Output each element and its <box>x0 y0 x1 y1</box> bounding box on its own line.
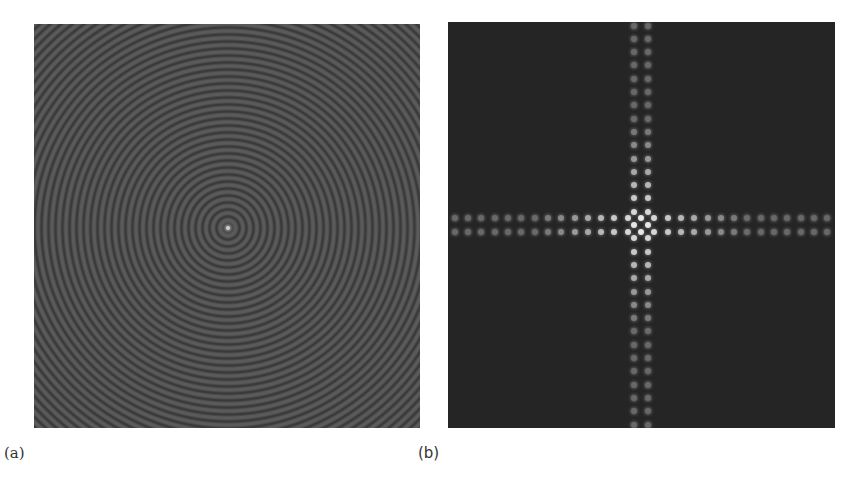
spectrum-dot <box>631 382 637 388</box>
spectrum-dot <box>798 229 804 235</box>
spectrum-dot <box>611 229 617 235</box>
spectrum-dot <box>532 215 538 221</box>
spectrum-dot <box>645 315 651 321</box>
spectrum-dot <box>545 229 551 235</box>
spectrum-dot <box>518 229 524 235</box>
spectrum-dot <box>718 215 724 221</box>
spectrum-dot <box>645 235 651 241</box>
spectrum-dot <box>558 215 564 221</box>
spectrum-dot <box>631 62 637 68</box>
spectrum-dot <box>771 229 777 235</box>
spectrum-dot <box>784 229 790 235</box>
spectrum-dot <box>645 76 651 82</box>
spectrum-dot <box>611 215 617 221</box>
panel-b-spectrum-image <box>448 22 835 428</box>
spectrum-dot <box>651 215 657 221</box>
spectrum-dot <box>478 229 484 235</box>
spectrum-dot <box>744 229 750 235</box>
spectrum-dot <box>645 182 651 188</box>
spectrum-dot <box>631 142 637 148</box>
spectrum-dot <box>631 76 637 82</box>
spectrum-dot <box>465 215 471 221</box>
spectrum-dot <box>625 229 631 235</box>
spectrum-dot <box>678 215 684 221</box>
spectrum-dot <box>645 275 651 281</box>
spectrum-dot <box>631 328 637 334</box>
spectrum-dot <box>645 289 651 295</box>
spectrum-dot <box>631 156 637 162</box>
rings-center-dot <box>226 226 230 230</box>
spectrum-dot <box>645 116 651 122</box>
spectrum-dot <box>631 195 637 201</box>
spectrum-dot <box>631 89 637 95</box>
spectrum-dot <box>645 209 651 215</box>
spectrum-dot <box>631 209 637 215</box>
spectrum-dot <box>645 262 651 268</box>
spectrum-dot <box>631 222 637 228</box>
spectrum-dot <box>691 215 697 221</box>
spectrum-dot <box>505 215 511 221</box>
spectrum-dot <box>631 49 637 55</box>
spectrum-dot <box>645 36 651 42</box>
spectrum-dot <box>665 215 671 221</box>
spectrum-dot <box>545 215 551 221</box>
spectrum-dot <box>631 249 637 255</box>
spectrum-dot <box>645 328 651 334</box>
spectrum-dot <box>572 215 578 221</box>
spectrum-dot <box>631 262 637 268</box>
spectrum-dot <box>758 215 764 221</box>
spectrum-dot <box>645 249 651 255</box>
spectrum-dot <box>691 229 697 235</box>
spectrum-dot <box>518 215 524 221</box>
spectrum-dot <box>758 229 764 235</box>
spectrum-dot <box>585 215 591 221</box>
spectrum-dot <box>478 215 484 221</box>
spectrum-dot <box>585 229 591 235</box>
spectrum-dot <box>645 408 651 414</box>
spectrum-dot <box>631 235 637 241</box>
spectrum-dot <box>598 215 604 221</box>
spectrum-dot <box>631 355 637 361</box>
spectrum-dot <box>811 229 817 235</box>
spectrum-dot <box>631 395 637 401</box>
spectrum-dot <box>645 355 651 361</box>
panel-b-label: (b) <box>418 444 439 462</box>
spectrum-dot <box>631 289 637 295</box>
spectrum-dot <box>645 169 651 175</box>
spectrum-dot <box>645 302 651 308</box>
spectrum-dot <box>631 116 637 122</box>
panel-a-concentric-rings-image <box>34 24 420 428</box>
spectrum-dot <box>645 222 651 228</box>
spectrum-dot <box>631 182 637 188</box>
spectrum-dot <box>645 62 651 68</box>
spectrum-dot <box>645 156 651 162</box>
spectrum-dot <box>631 23 637 29</box>
spectrum-dot <box>705 229 711 235</box>
spectrum-dot <box>631 342 637 348</box>
spectrum-dot <box>645 382 651 388</box>
spectrum-dot <box>645 102 651 108</box>
spectrum-dot <box>705 215 711 221</box>
spectrum-dot <box>631 315 637 321</box>
spectrum-dot <box>492 215 498 221</box>
spectrum-dot <box>631 408 637 414</box>
spectrum-dot <box>744 215 750 221</box>
spectrum-dot <box>645 395 651 401</box>
spectrum-dot <box>645 49 651 55</box>
spectrum-dot <box>625 215 631 221</box>
spectrum-dot <box>638 215 644 221</box>
spectrum-dot <box>631 368 637 374</box>
spectrum-dot <box>532 229 538 235</box>
spectrum-dot <box>631 169 637 175</box>
spectrum-dot <box>598 229 604 235</box>
spectrum-dot <box>811 215 817 221</box>
spectrum-dot <box>645 129 651 135</box>
spectrum-dot <box>645 422 651 428</box>
spectrum-dot <box>631 36 637 42</box>
spectrum-dot <box>631 302 637 308</box>
spectrum-dot <box>771 215 777 221</box>
spectrum-dot <box>465 229 471 235</box>
spectrum-dot <box>824 215 830 221</box>
spectrum-dot <box>718 229 724 235</box>
spectrum-dot <box>558 229 564 235</box>
